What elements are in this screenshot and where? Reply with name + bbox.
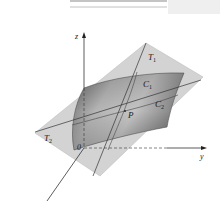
y-axis-label: y (199, 152, 204, 161)
x-axis (47, 148, 84, 201)
label-p: P (127, 110, 134, 120)
tangent-plane-diagram: z y 0 T1 C1 C2 T2 P (0, 0, 220, 203)
origin-label: 0 (77, 143, 81, 152)
point-p (124, 110, 126, 112)
z-axis-arrow-icon (82, 32, 86, 38)
section-number-block (168, 0, 220, 14)
z-axis-label: z (74, 32, 79, 41)
y-axis-arrow-icon (201, 146, 207, 150)
page-header-rules (70, 0, 220, 14)
